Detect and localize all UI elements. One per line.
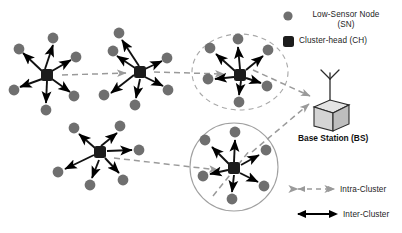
figure-canvas: Low-Sensor Node(SN) Cluster-head (CH) Ba…	[0, 0, 402, 233]
cluster-head	[94, 146, 106, 158]
network-diagram	[0, 0, 402, 233]
legend-intra-cluster-label: Intra-Cluster	[340, 185, 386, 195]
legend-cluster-head-label: Cluster-head (CH)	[299, 36, 367, 46]
cluster-3	[203, 34, 274, 108]
base-station-icon	[314, 70, 349, 131]
intra-cluster-links	[62, 70, 310, 196]
legend-cluster-head-icon	[283, 36, 294, 47]
cluster-head	[134, 66, 146, 78]
base-station-label: Base Station (BS)	[298, 133, 368, 143]
cluster-head	[41, 69, 53, 81]
cluster-head	[234, 69, 246, 81]
cluster-1	[9, 33, 82, 116]
legend-sensor-node-label: Low-Sensor Node(SN)	[300, 10, 392, 30]
legend-inter-cluster-label: Inter-Cluster	[343, 210, 389, 220]
cluster-2	[99, 28, 174, 111]
cluster-5	[198, 127, 272, 205]
cluster-head	[228, 162, 240, 174]
legend-sensor-node-icon	[283, 11, 292, 20]
legend-inter-arrow-icon	[297, 210, 338, 218]
cluster-4	[53, 121, 145, 191]
legend-intra-arrow-icon	[298, 186, 335, 192]
